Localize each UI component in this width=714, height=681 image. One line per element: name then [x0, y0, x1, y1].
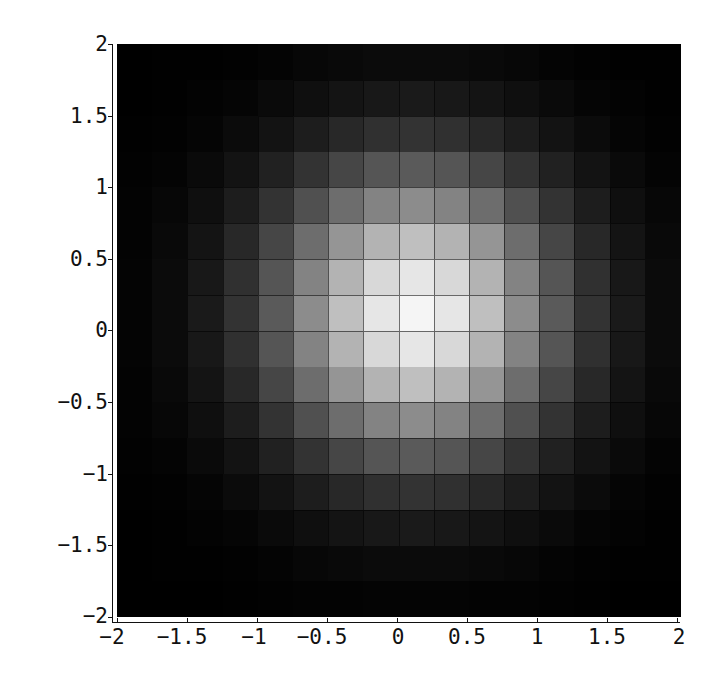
density-cell [645, 366, 681, 402]
density-cell [434, 438, 470, 474]
density-cell [469, 295, 505, 331]
density-cell [117, 223, 153, 259]
density-cell [187, 331, 223, 367]
density-cell [469, 223, 505, 259]
density-cell [152, 474, 188, 510]
density-cell [117, 151, 153, 187]
density-cell [539, 80, 575, 116]
density-cell [223, 259, 259, 295]
x-tick [117, 618, 118, 623]
density-cell [363, 510, 399, 546]
density-cell [574, 331, 610, 367]
density-cell [504, 474, 540, 510]
y-tick [108, 617, 113, 618]
density-cell [610, 44, 646, 80]
density-cell [328, 80, 364, 116]
x-tick [537, 618, 538, 623]
density-cell [328, 331, 364, 367]
density-cell [258, 187, 294, 223]
density-cell [152, 116, 188, 152]
density-cell [223, 116, 259, 152]
density-cell [187, 295, 223, 331]
density-cell [539, 44, 575, 80]
density-cell [117, 80, 153, 116]
density-cell [328, 474, 364, 510]
x-tick [397, 618, 398, 623]
density-cell [258, 295, 294, 331]
y-tick [108, 44, 113, 45]
y-tick-label: −2 [83, 606, 108, 627]
density-cell [258, 223, 294, 259]
density-cell [363, 402, 399, 438]
density-cell [363, 116, 399, 152]
y-tick [108, 187, 113, 188]
y-tick-label: 0 [95, 320, 108, 341]
density-cell [504, 80, 540, 116]
density-cell [223, 510, 259, 546]
density-cell [434, 581, 470, 617]
density-cell [328, 223, 364, 259]
density-cell [504, 151, 540, 187]
density-cell [610, 545, 646, 581]
y-tick-label: 0.5 [70, 249, 108, 270]
density-cell [152, 545, 188, 581]
density-cell [434, 331, 470, 367]
density-cell [187, 581, 223, 617]
density-cell [434, 223, 470, 259]
density-cell [152, 187, 188, 223]
density-cell [504, 545, 540, 581]
density-cell [469, 80, 505, 116]
density-cell [504, 581, 540, 617]
density-cell [363, 80, 399, 116]
density-cell [293, 474, 329, 510]
density-cell [645, 474, 681, 510]
y-tick [108, 474, 113, 475]
density-cell [152, 259, 188, 295]
density-cell [399, 402, 435, 438]
density-cell [187, 187, 223, 223]
density-cell [469, 44, 505, 80]
density-cell [293, 438, 329, 474]
density-cell [117, 44, 153, 80]
density-cell [574, 187, 610, 223]
density-cell [399, 80, 435, 116]
density-cell [539, 223, 575, 259]
density-cell [399, 295, 435, 331]
density-cell [187, 151, 223, 187]
density-cell [469, 116, 505, 152]
density-cell [504, 259, 540, 295]
density-cell [469, 259, 505, 295]
density-cell [293, 331, 329, 367]
density-cell [152, 366, 188, 402]
density-cell [610, 151, 646, 187]
density-cell [117, 187, 153, 223]
density-cell [399, 545, 435, 581]
density-cell [363, 44, 399, 80]
density-cell [645, 545, 681, 581]
density-cell [574, 295, 610, 331]
density-cell [434, 366, 470, 402]
density-cell [539, 187, 575, 223]
density-cell [293, 80, 329, 116]
density-cell [539, 151, 575, 187]
density-cell [434, 545, 470, 581]
density-cell [293, 581, 329, 617]
density-cell [117, 581, 153, 617]
density-cell [258, 581, 294, 617]
density-cell [645, 438, 681, 474]
density-cell [399, 151, 435, 187]
density-cell [469, 151, 505, 187]
y-tick [108, 259, 113, 260]
density-cell [293, 510, 329, 546]
density-cell [363, 438, 399, 474]
density-cell [117, 510, 153, 546]
density-cell [328, 366, 364, 402]
y-tick [108, 330, 113, 331]
density-cell [187, 44, 223, 80]
density-cell [645, 187, 681, 223]
density-cell [469, 187, 505, 223]
x-tick-label: −2 [99, 627, 124, 648]
density-cell [258, 545, 294, 581]
x-tick-label: −1.5 [157, 627, 208, 648]
density-cell [293, 223, 329, 259]
